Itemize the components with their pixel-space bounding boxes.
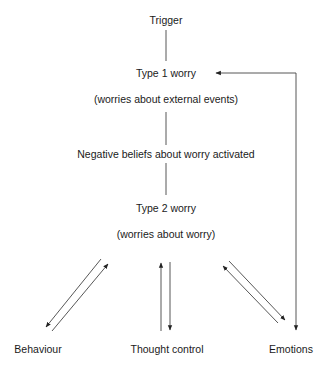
node-emotions: Emotions <box>269 343 313 355</box>
node-type1-subtitle: (worries about external events) <box>94 93 238 105</box>
arrow-behaviour-to-type2 <box>52 264 108 331</box>
arrow-type2-to-behaviour <box>46 259 101 327</box>
node-behaviour: Behaviour <box>14 343 61 355</box>
node-type2-worry: Type 2 worry <box>136 202 196 214</box>
node-trigger: Trigger <box>150 14 183 26</box>
arrow-emotions-type1-loop <box>216 73 296 330</box>
node-type1-worry: Type 1 worry <box>136 67 196 79</box>
arrow-type2-to-emotions <box>229 261 285 320</box>
node-thought-control: Thought control <box>131 343 204 355</box>
node-negative-beliefs: Negative beliefs about worry activated <box>77 148 254 160</box>
diagram-canvas <box>0 0 322 371</box>
arrow-emotions-to-type2 <box>223 266 278 323</box>
node-type2-subtitle: (worries about worry) <box>117 228 216 240</box>
